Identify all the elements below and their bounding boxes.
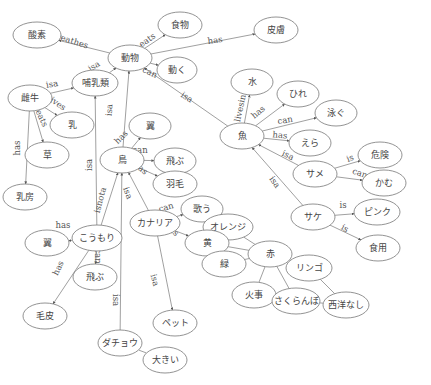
edge-has — [151, 34, 255, 54]
edge-label: has — [50, 259, 65, 277]
edge-label: is — [339, 222, 350, 234]
node-label: 大きい — [152, 354, 179, 365]
node-hifu: 皮膚 — [254, 17, 298, 43]
edge-label: has — [12, 141, 22, 156]
node-label: かむ — [375, 178, 393, 188]
node-dachou: ダチョウ — [98, 330, 142, 356]
node-label: 水 — [248, 76, 257, 87]
edge-label: isa — [84, 159, 94, 171]
edge-label: isa — [179, 89, 195, 104]
node-label: ピンク — [364, 207, 391, 217]
edge-line — [177, 215, 183, 217]
node-midori: 緑 — [202, 251, 246, 277]
node-ringo: リンゴ — [286, 255, 332, 281]
node-kiken: 危険 — [358, 142, 402, 168]
node-label: 哺乳類 — [82, 77, 109, 88]
edge-label: has — [207, 34, 223, 46]
node-mizu: 水 — [231, 69, 273, 95]
node-chichi: 乳 — [50, 112, 94, 138]
edge-line — [151, 34, 255, 54]
node-label: 黄 — [203, 237, 212, 248]
node-tori: 鳥 — [100, 147, 144, 173]
node-label: カナリア — [137, 218, 173, 228]
edge-line — [150, 63, 158, 65]
node-era: えら — [289, 130, 331, 156]
node-sanso: 酸素 — [13, 22, 61, 48]
edge-label: has — [112, 128, 130, 146]
edge-label: is — [345, 152, 355, 164]
edge-label: has — [272, 129, 288, 140]
edge-line — [109, 68, 116, 73]
node-label: ペット — [162, 318, 189, 328]
node-kegawa: 毛皮 — [23, 303, 67, 329]
node-label: 飛ぶ — [166, 156, 184, 166]
edge-line — [320, 279, 334, 293]
node-tsubasa2: 翼 — [25, 230, 69, 256]
node-label: 歌う — [193, 203, 211, 214]
node-koumori: こうもり — [72, 225, 122, 251]
node-sakuranbo: さくらんぼ — [272, 288, 320, 314]
edge-link — [320, 279, 334, 293]
edge-line — [259, 267, 265, 283]
node-label: 飛ぶ — [86, 272, 104, 282]
node-label: 翼 — [146, 121, 155, 131]
node-petto: ペット — [153, 310, 197, 336]
node-shokumotsu: 食物 — [158, 12, 202, 38]
node-kanaria: カナリア — [130, 210, 180, 236]
edge-label: can — [277, 114, 294, 127]
edge-can — [150, 63, 158, 65]
node-label: ダチョウ — [102, 337, 138, 348]
node-label: 食用 — [369, 242, 387, 253]
edge-isa — [120, 173, 122, 330]
edge-line — [120, 173, 122, 330]
edge-label: is — [339, 200, 346, 210]
node-label: 乳 — [68, 119, 77, 130]
edge-link — [228, 247, 249, 251]
node-label: 乳房 — [16, 191, 34, 202]
node-label: 緑 — [220, 258, 229, 269]
node-label: さくらんぼ — [274, 296, 319, 306]
node-label: リンゴ — [296, 262, 323, 273]
edge-link — [244, 237, 255, 244]
edge-link — [259, 267, 265, 283]
node-tsubasa1: 翼 — [129, 113, 171, 139]
edge-isa — [158, 236, 173, 310]
node-sake: サケ — [291, 204, 335, 230]
node-label: 食物 — [171, 19, 189, 30]
node-label: 草 — [43, 149, 52, 160]
node-chibusa: 乳房 — [3, 184, 47, 210]
node-label: 翼 — [43, 238, 52, 248]
edge-can — [177, 215, 183, 217]
edge-line — [158, 236, 173, 310]
node-label: サケ — [304, 212, 322, 222]
edge-label: has — [249, 103, 267, 120]
node-label: 羽毛 — [166, 178, 184, 189]
edge-is — [335, 214, 354, 216]
edge-label: has — [56, 220, 71, 230]
edge-line — [139, 350, 147, 353]
node-label: 危険 — [371, 149, 389, 160]
edge-link — [139, 350, 147, 353]
nodes-layer: 酸素食物皮膚動物動く哺乳類雌牛乳草水ひれ泳ぐ魚えら翼鳥飛ぶ羽毛危険サメかむ乳房歌… — [3, 12, 406, 373]
edge-line — [335, 214, 354, 216]
node-label: サメ — [306, 169, 324, 179]
node-label: こうもり — [79, 233, 115, 243]
edge-label: isa — [149, 273, 162, 287]
node-shokuyou: 食用 — [356, 235, 400, 261]
node-aka: 赤 — [248, 241, 292, 267]
node-label: 動物 — [121, 52, 139, 63]
edge-label: isa — [111, 294, 121, 306]
node-label: 鳥 — [118, 154, 127, 165]
node-label: 泳ぐ — [327, 107, 345, 118]
edge-isa — [109, 68, 116, 73]
node-kamu: かむ — [362, 170, 406, 196]
node-sakana: 魚 — [220, 123, 264, 149]
node-seiyounashi: 西洋なし — [323, 292, 369, 318]
edge-line — [228, 247, 249, 251]
node-label: 酸素 — [28, 29, 46, 40]
node-ugoku: 動く — [157, 57, 197, 83]
node-label: 西洋なし — [328, 299, 364, 310]
node-tobu2: 飛ぶ — [73, 264, 117, 290]
node-ookii: 大きい — [143, 347, 187, 373]
edge-line — [245, 258, 250, 259]
